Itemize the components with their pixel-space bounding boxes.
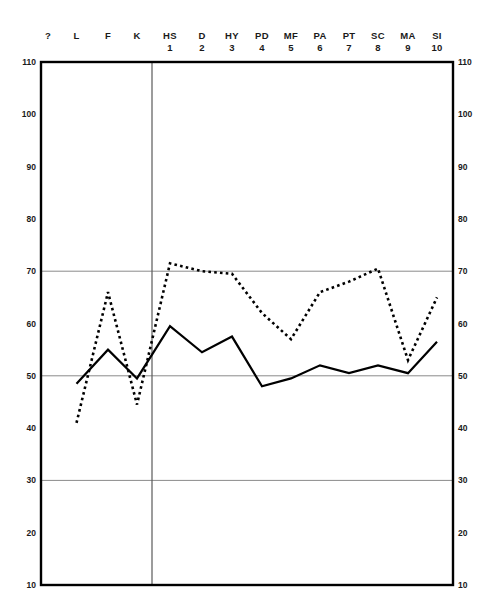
y-tick-left-100: 100: [14, 109, 36, 119]
profile-plot: [0, 0, 497, 615]
y-tick-right-30: 30: [458, 475, 482, 485]
y-tick-right-20: 20: [458, 528, 482, 538]
y-tick-left-80: 80: [14, 214, 36, 224]
profile-series: [77, 263, 438, 423]
y-tick-right-50: 50: [458, 371, 482, 381]
y-tick-left-90: 90: [14, 162, 36, 172]
y-tick-left-30: 30: [14, 475, 36, 485]
y-tick-left-20: 20: [14, 528, 36, 538]
plot-border: [41, 62, 453, 585]
gridlines: [41, 271, 453, 480]
plot-frame: [41, 62, 453, 585]
y-tick-right-70: 70: [458, 266, 482, 276]
mmpi-profile-chart: ?LFKHS1D2HY3PD4MF5PA6PT7SC8MA9SI10 11010…: [0, 0, 497, 615]
y-tick-right-60: 60: [458, 319, 482, 329]
y-tick-left-10: 10: [14, 580, 36, 590]
y-tick-left-70: 70: [14, 266, 36, 276]
series-dotted-profile: [77, 263, 438, 423]
y-tick-right-110: 110: [458, 57, 482, 67]
y-tick-left-60: 60: [14, 319, 36, 329]
y-tick-right-10: 10: [458, 580, 482, 590]
y-tick-right-100: 100: [458, 109, 482, 119]
y-tick-right-40: 40: [458, 423, 482, 433]
y-tick-right-80: 80: [458, 214, 482, 224]
y-tick-right-90: 90: [458, 162, 482, 172]
y-tick-left-40: 40: [14, 423, 36, 433]
y-tick-left-110: 110: [14, 57, 36, 67]
y-tick-left-50: 50: [14, 371, 36, 381]
